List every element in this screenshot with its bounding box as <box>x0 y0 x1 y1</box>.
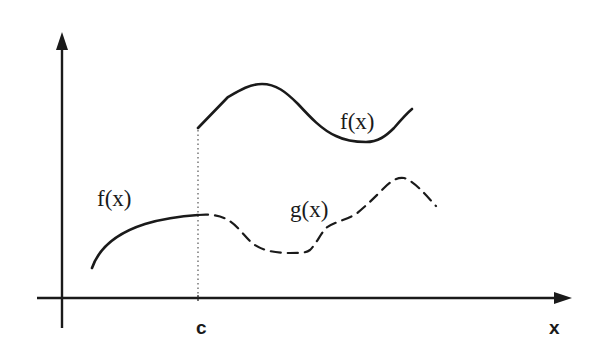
g-label: g(x) <box>290 198 328 221</box>
x-axis-arrow-icon <box>554 292 572 304</box>
y-axis-arrow-icon <box>56 32 68 50</box>
x-axis-label: x <box>549 318 560 337</box>
c-tick-label: c <box>196 318 207 337</box>
f-left-branch <box>92 215 198 268</box>
f-left-label: f(x) <box>97 187 131 210</box>
f-right-branch <box>198 84 412 142</box>
function-diagram <box>0 0 593 359</box>
f-right-label: f(x) <box>340 110 374 133</box>
